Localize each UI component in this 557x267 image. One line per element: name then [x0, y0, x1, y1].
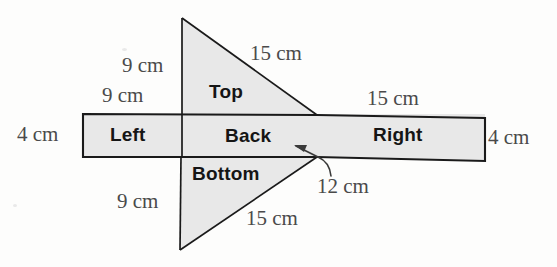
face-label-top: Top: [209, 82, 243, 101]
face-label-right: Right: [373, 125, 423, 144]
dimension-label-top-vertical-9cm: 9 cm: [122, 55, 163, 76]
face-label-bottom: Bottom: [192, 164, 260, 183]
dimension-label-top-hypotenuse-15cm: 15 cm: [250, 43, 302, 64]
dimension-label-back-width-12cm: 12 cm: [317, 176, 369, 197]
net-diagram-figure: Left Back Right Top Bottom 9 cm 9 cm 15 …: [0, 0, 557, 267]
dimension-label-left-height-4cm: 4 cm: [17, 124, 58, 145]
dimension-label-bottom-vertical-9cm: 9 cm: [117, 191, 158, 212]
scan-speck: [13, 204, 17, 207]
scan-speck: [122, 48, 127, 51]
face-label-back: Back: [225, 126, 271, 145]
bottom-triangle-vertical-edge: [180, 157, 181, 250]
dimension-label-left-width-9cm: 9 cm: [102, 85, 143, 106]
dimension-label-right-width-15cm: 15 cm: [367, 88, 419, 109]
face-label-left: Left: [110, 125, 146, 144]
dimension-label-right-height-4cm: 4 cm: [488, 127, 529, 148]
dimension-label-bottom-hypotenuse-15cm: 15 cm: [246, 208, 298, 229]
